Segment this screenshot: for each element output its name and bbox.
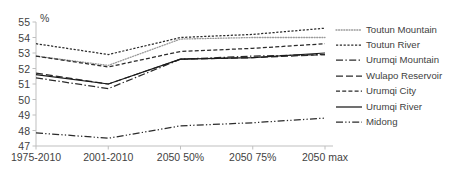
series-line [36, 118, 325, 138]
y-axis-tick-label: 50 [8, 95, 30, 105]
legend-line-swatch-icon [336, 102, 362, 112]
legend-item-label: Midong [366, 117, 397, 127]
y-axis-tick-label: 48 [8, 126, 30, 136]
y-axis-tick-label: 55 [8, 17, 30, 27]
legend-item-label: Urumqi City [366, 86, 416, 96]
x-axis-tick-label: 2001-2010 [83, 152, 133, 163]
x-axis-tick-label: 2050 75% [229, 152, 276, 163]
legend-item-label: Urumqi Mountain [366, 55, 439, 65]
y-axis-tick-label: 54 [8, 33, 30, 43]
chart-legend: Toutun MountainToutun RiverUrumqi Mounta… [336, 22, 453, 130]
legend-item-label: Urumqi River [366, 102, 422, 112]
legend-line-swatch-icon [336, 55, 362, 65]
legend-item[interactable]: Midong [336, 114, 453, 129]
legend-line-swatch-icon [336, 71, 362, 81]
x-axis-tick-label: 2050 50% [157, 152, 204, 163]
series-line [36, 38, 325, 66]
x-axis-tick-label: 2050 max [302, 152, 348, 163]
x-axis-tick-label: 1975-2010 [11, 152, 61, 163]
line-chart: % 474849505152535455 1975-20102001-20102… [0, 0, 453, 171]
y-axis-tick-label: 51 [8, 79, 30, 89]
legend-item-label: Toutun River [366, 40, 420, 50]
legend-item[interactable]: Toutun Mountain [336, 22, 453, 37]
legend-line-swatch-icon [336, 117, 362, 127]
legend-item[interactable]: Urumqi City [336, 84, 453, 99]
legend-item[interactable]: Urumqi Mountain [336, 53, 453, 68]
series-line [36, 28, 325, 54]
y-axis-tick-label: 52 [8, 64, 30, 74]
legend-item-label: Wulapo Reservoir [366, 71, 442, 81]
y-axis-tick-label: 49 [8, 110, 30, 120]
legend-item[interactable]: Urumqi River [336, 99, 453, 114]
y-axis-tick-label: 53 [8, 48, 30, 58]
legend-item[interactable]: Wulapo Reservoir [336, 68, 453, 83]
y-axis-unit-label: % [40, 12, 49, 24]
legend-line-swatch-icon [336, 86, 362, 96]
legend-line-swatch-icon [336, 25, 362, 35]
legend-item-label: Toutun Mountain [366, 25, 437, 35]
legend-item[interactable]: Toutun River [336, 37, 453, 52]
y-axis-tick-label: 47 [8, 141, 30, 151]
legend-line-swatch-icon [336, 40, 362, 50]
